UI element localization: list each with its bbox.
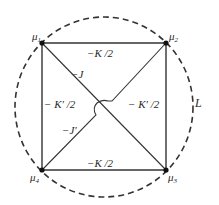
label-mu1: μ1: [31, 30, 41, 44]
label-mu2: μ2: [168, 30, 179, 44]
label-diagonal-J: −J: [71, 68, 84, 80]
label-mu3: μ3: [167, 171, 178, 185]
label-edge-left: − K′ /2: [44, 98, 76, 110]
label-edge-bottom: −K /2: [87, 157, 114, 169]
label-loop-L: L: [194, 96, 202, 110]
label-edge-top: −K /2: [87, 47, 114, 59]
label-edge-right: − K′ /2: [128, 98, 160, 110]
label-diagonal-J-prime: −J′: [62, 124, 77, 136]
node-mu2: [163, 40, 168, 45]
node-mu4: [39, 167, 44, 172]
label-mu4: μ4: [29, 171, 40, 185]
coupling-diagram: μ1 μ2 μ3 μ4 −K /2 −K /2 − K′ /2 − K′ /2 …: [0, 0, 219, 205]
